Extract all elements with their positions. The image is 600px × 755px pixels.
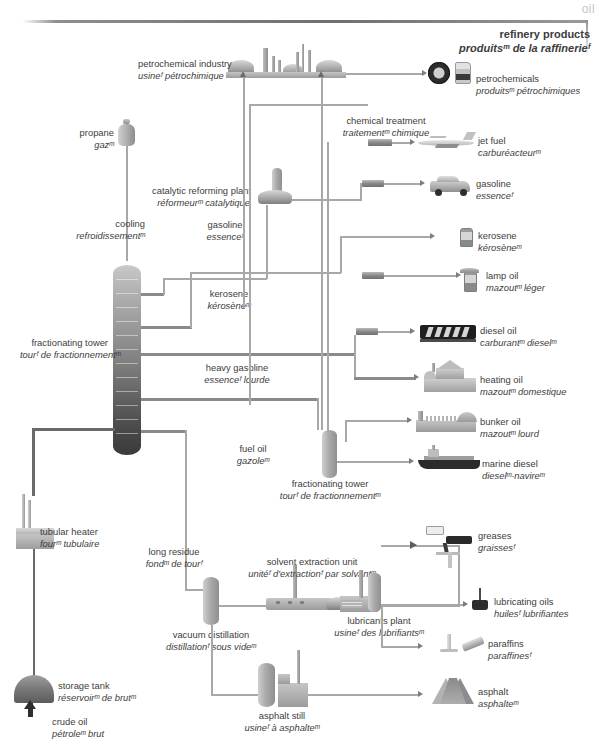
pipe-gasoline-out	[384, 183, 420, 185]
label-fr: produitsᵐ pétrochimiques	[476, 85, 580, 97]
label-fr: asphalteᵐ	[478, 698, 518, 710]
label-fr: tourᶠ de fractionnementᵐ	[20, 349, 108, 361]
label-greases: greases graissesᶠ	[478, 530, 515, 554]
label-fr: kérosèneᵐ	[478, 242, 521, 254]
pipe-kerosene-run	[190, 272, 341, 274]
label-fuel-oil: fuel oil gazoleᵐ	[222, 443, 284, 467]
label-en: kerosene	[478, 230, 521, 242]
label-fractionating-tower-main: fractionating tower tourᶠ de fractionnem…	[20, 337, 108, 361]
pipe-draw-gasoline	[141, 293, 164, 296]
arrow-greases	[410, 541, 417, 549]
label-fr: carburéacteurᵐ	[478, 147, 541, 159]
label-lamp-oil: lamp oil mazoutᵐ léger	[486, 270, 545, 294]
label-en: crude oil	[52, 716, 104, 728]
label-storage-tank: storage tank réservoirᵐ de brutᵐ	[58, 680, 136, 704]
label-kerosene-stream: kerosene kérosèneᵐ	[192, 288, 266, 312]
label-fr: paraffinesᶠ	[488, 650, 531, 662]
label-fr: graissesᶠ	[478, 542, 515, 554]
label-en: chemical treatment	[330, 115, 442, 127]
label-en: heavy gasoline	[192, 362, 282, 374]
label-en: lubricating oils	[494, 596, 568, 608]
label-fr: tourᶠ de fractionnementᵐ	[272, 490, 388, 502]
arrow-into-petrochem-b	[318, 71, 324, 77]
label-en: lubricants plant	[306, 615, 452, 627]
pipe-trunk-d	[327, 142, 329, 432]
arrow-diesel-oil	[410, 328, 415, 334]
pipe-asphalt-out	[308, 694, 418, 696]
page-title: refinery products produitsᵐ de la raffin…	[459, 27, 590, 55]
pipe-propane-riser	[126, 146, 128, 261]
pipe-marine-diesel	[337, 461, 411, 463]
label-en: bunker oil	[480, 416, 539, 428]
label-marine-diesel: marine diesel dieselᵐ-navireᵐ	[482, 458, 545, 482]
label-en: tubular heater	[40, 526, 99, 538]
label-en: paraffins	[488, 638, 531, 650]
label-fr: usineᶠ des lubrifiantsᵐ	[306, 627, 452, 639]
label-jet-fuel: jet fuel carburéacteurᵐ	[478, 135, 541, 159]
label-fr: kérosèneᵐ	[192, 300, 266, 312]
label-fr: réservoirᵐ de brutᵐ	[58, 692, 136, 704]
page-title-fr: produitsᵐ de la raffinerieᶠ	[459, 41, 590, 55]
pipe-chemtreat-feed	[249, 104, 368, 106]
pipe-draw-kerosene	[141, 326, 192, 329]
refinery-diagram: oil refinery products produitsᵐ de la ra…	[0, 0, 600, 755]
label-fr: gazoleᵐ	[222, 455, 284, 467]
pipe-kerosene-product	[340, 236, 430, 238]
arrow-paraffins	[418, 643, 423, 649]
label-asphalt-still: asphalt still usineᶠ à asphalteᵐ	[222, 710, 342, 734]
label-kerosene-product: kerosene kérosèneᵐ	[478, 230, 521, 254]
pipe-trunk-a	[243, 78, 245, 308]
label-en: petrochemicals	[476, 73, 580, 85]
label-en: heating oil	[480, 374, 567, 386]
label-bunker-oil: bunker oil mazoutᵐ lourd	[480, 416, 539, 440]
label-en: asphalt still	[222, 710, 342, 722]
arrow-into-petrochem-a	[240, 71, 246, 77]
label-en: cooling	[60, 218, 145, 230]
lamp-oil-valve	[362, 272, 384, 279]
label-en: jet fuel	[478, 135, 541, 147]
pipe-heater-to-tank	[33, 549, 35, 677]
pipe-bunker-oil	[345, 420, 407, 422]
pipe-trunk-c	[321, 78, 323, 430]
pipe-crude-riser	[32, 428, 35, 496]
label-fr: pétroleᵐ brut	[52, 728, 104, 740]
pipe-heating-oil	[354, 377, 416, 380]
label-en: catalytic reforming plant	[152, 185, 250, 197]
label-tubular-heater: tubular heater fourᵐ tubulaire	[40, 526, 99, 550]
pipe-trunk-b	[249, 105, 251, 405]
label-en: petrochemical industry	[138, 58, 223, 70]
label-fractionating-tower-small: fractionating tower tourᶠ de fractionnem…	[272, 478, 388, 502]
vacuum-distillation-icon	[203, 577, 219, 625]
label-en: fractionating tower	[272, 478, 388, 490]
label-fr: gazᵐ	[70, 139, 114, 151]
pipe-asphalt-feed	[211, 694, 261, 696]
label-crude-oil: crude oil pétroleᵐ brut	[52, 716, 104, 740]
pipe-heating-oil-down	[354, 355, 356, 378]
label-paraffins: paraffins paraffinesᶠ	[488, 638, 531, 662]
label-petrochemicals: petrochemicals produitsᵐ pétrochimiques	[476, 73, 580, 97]
arrow-gasoline	[420, 180, 425, 186]
pipe-lamp-oil	[384, 275, 458, 277]
diesel-valve	[356, 328, 378, 335]
label-en: kerosene	[192, 288, 266, 300]
label-fr: mazoutᵐ léger	[486, 282, 545, 294]
arrow-jet-fuel	[410, 139, 415, 145]
pipe-crude-into-tower	[32, 428, 115, 431]
label-fr: dieselᵐ-navireᵐ	[482, 470, 545, 482]
arrow-kerosene	[430, 233, 435, 239]
label-fr: essenceᶠ lourde	[192, 374, 282, 386]
label-heavy-gasoline: heavy gasoline essenceᶠ lourde	[192, 362, 282, 386]
pipe-vacuum-to-asphalt	[211, 625, 213, 695]
pipe-lubricating-oils	[381, 604, 463, 606]
chemical-treatment-valve	[368, 139, 392, 146]
header-rule	[22, 20, 588, 23]
label-fr: traitementᵐ chimique	[330, 127, 442, 139]
pipe-gasoline-up	[163, 278, 165, 295]
label-propane: propane gazᵐ	[70, 127, 114, 151]
pipe-diesel-out	[378, 331, 410, 333]
label-fr: huilesᶠ lubrifiantes	[494, 608, 568, 620]
label-fr: usineᶠ pétrochimique	[138, 70, 223, 82]
pipe-fueloil-down	[317, 398, 319, 430]
pipe-kerosene-lift	[340, 236, 342, 273]
gasoline-valve	[362, 180, 384, 187]
